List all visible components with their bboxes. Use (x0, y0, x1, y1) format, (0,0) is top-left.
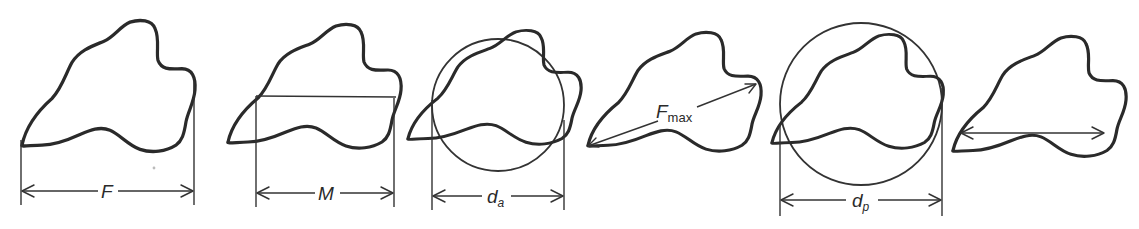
bisecting-chord (256, 96, 396, 97)
max-feret-line (697, 84, 756, 107)
particle-size-diagram: F M da Fmax (0, 0, 1139, 229)
panel-feret: F (21, 20, 195, 205)
particle-outline (772, 34, 944, 148)
label-feret: F (101, 181, 114, 202)
speck (153, 167, 156, 170)
particle-outline (953, 36, 1126, 156)
particle-outline (22, 20, 195, 151)
panel-martin: M (228, 24, 401, 207)
arrow-right-icon (745, 84, 756, 93)
panel-projected-area: da (408, 30, 581, 210)
label-max-feret: Fmax (656, 101, 693, 125)
panel-perimeter: dp (772, 23, 944, 216)
label-martin: M (318, 183, 334, 204)
panel-max-chord (953, 36, 1126, 156)
label-perimeter-diameter: dp (852, 190, 870, 214)
particle-outline (228, 24, 401, 148)
panel-max-feret: Fmax (588, 32, 761, 151)
label-projected-area-diameter: da (487, 186, 505, 210)
